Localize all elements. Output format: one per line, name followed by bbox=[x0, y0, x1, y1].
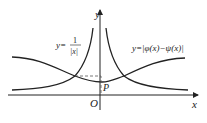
origin-label: O bbox=[90, 97, 98, 109]
curve2-label: y=|φ(x)−ψ(x)| bbox=[131, 43, 184, 53]
abs-difference-curve bbox=[12, 57, 185, 82]
curve1-numerator: 1 bbox=[73, 36, 77, 45]
curve1-denominator: |x| bbox=[70, 47, 78, 56]
curve1-label-prefix: y= bbox=[55, 40, 66, 50]
y-axis-label: y bbox=[94, 8, 100, 20]
reciprocal-abs-curve bbox=[12, 28, 93, 90]
dashed-guide bbox=[75, 76, 101, 95]
x-axis-label: x bbox=[191, 98, 197, 110]
point-p-label: P bbox=[102, 82, 109, 93]
function-graph: y x O P y= 1 |x| y=|φ(x)−ψ(x)| bbox=[0, 0, 207, 123]
